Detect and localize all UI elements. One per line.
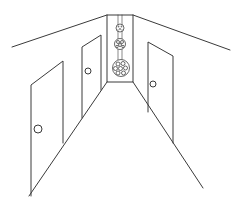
left-near-door-knob-icon bbox=[34, 125, 42, 133]
left-near-door bbox=[31, 61, 63, 196]
pendant-lights bbox=[113, 15, 130, 77]
right-door bbox=[148, 42, 173, 143]
left-far-door-knob-icon bbox=[85, 68, 91, 74]
left-far-door bbox=[82, 35, 101, 118]
large-pendant-light-icon bbox=[113, 60, 130, 77]
left-floor-edge bbox=[29, 82, 107, 196]
hallway-illustration bbox=[0, 0, 248, 204]
left-far-door-frame bbox=[82, 35, 101, 118]
right-door-knob-icon bbox=[150, 81, 156, 87]
right-door-frame bbox=[148, 42, 173, 143]
left-ceiling-edge bbox=[12, 15, 107, 47]
small-pendant-light-icon bbox=[116, 24, 124, 32]
right-floor-edge bbox=[133, 82, 203, 188]
medium-pendant-light-icon bbox=[115, 39, 126, 50]
